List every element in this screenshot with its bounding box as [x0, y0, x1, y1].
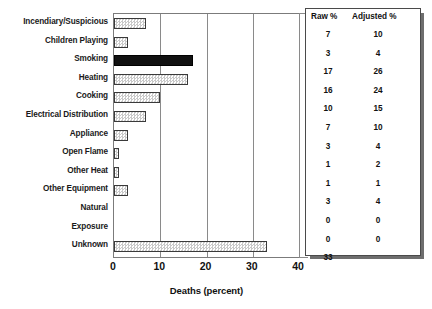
category-label: Electrical Distribution — [0, 110, 108, 120]
connector-vertical-line — [299, 13, 300, 258]
column-header-raw-percent: Raw % — [311, 12, 337, 21]
table-row: 34 — [306, 142, 420, 153]
cell-adjusted-percent: 10 — [350, 30, 406, 39]
cell-raw-percent: 0 — [306, 216, 350, 225]
category-label: Appliance — [0, 129, 108, 139]
cell-raw-percent: 1 — [306, 160, 350, 169]
bar-incendiary-suspicious — [114, 18, 146, 29]
category-label: Smoking — [0, 54, 108, 64]
table-row: 33 — [306, 253, 420, 264]
category-label: Other Equipment — [0, 184, 108, 194]
table-row: 00 — [306, 216, 420, 227]
table-row: 710 — [306, 123, 420, 134]
table-row: 12 — [306, 160, 420, 171]
data-table-header-row: Raw % Adjusted % — [306, 12, 420, 24]
category-label: Exposure — [0, 222, 108, 232]
cell-adjusted-percent: 1 — [350, 179, 406, 188]
table-row: 11 — [306, 179, 420, 190]
x-tick-label: 0 — [98, 260, 128, 272]
category-label: Heating — [0, 73, 108, 83]
cell-adjusted-percent: 2 — [350, 160, 406, 169]
bar-appliance — [114, 130, 128, 141]
category-axis-labels: Incendiary/SuspiciousChildren PlayingSmo… — [0, 14, 108, 258]
data-table-panel: Raw % Adjusted % 71034172616241015710341… — [305, 8, 421, 256]
cell-raw-percent: 3 — [306, 49, 350, 58]
cell-adjusted-percent: 4 — [350, 49, 406, 58]
cell-raw-percent: 17 — [306, 67, 350, 76]
bar-smoking — [114, 55, 193, 66]
cell-adjusted-percent: 10 — [350, 123, 406, 132]
bar-electrical-distribution — [114, 111, 146, 122]
table-row: 00 — [306, 235, 420, 246]
plot-area — [113, 13, 300, 258]
cell-raw-percent: 0 — [306, 235, 350, 244]
category-label: Children Playing — [0, 36, 108, 46]
gridline — [253, 14, 254, 257]
cell-raw-percent: 3 — [306, 142, 350, 151]
category-label: Incendiary/Suspicious — [0, 17, 108, 27]
table-row: 710 — [306, 30, 420, 41]
cell-adjusted-percent: 26 — [350, 67, 406, 76]
cell-raw-percent: 3 — [306, 197, 350, 206]
bar-cooking — [114, 92, 160, 103]
table-row: 1726 — [306, 67, 420, 78]
cell-raw-percent: 1 — [306, 179, 350, 188]
cell-raw-percent: 16 — [306, 86, 350, 95]
cell-raw-percent: 33 — [306, 253, 350, 262]
x-axis-tick-labels: 010203040 — [113, 260, 303, 274]
bar-other-equipment — [114, 185, 128, 196]
cell-adjusted-percent: 4 — [350, 197, 406, 206]
gridline — [160, 14, 161, 257]
table-row: 34 — [306, 49, 420, 60]
x-tick-label: 20 — [191, 260, 221, 272]
table-row: 1015 — [306, 104, 420, 115]
category-label: Other Heat — [0, 166, 108, 176]
category-label: Natural — [0, 203, 108, 213]
bar-children-playing — [114, 37, 128, 48]
x-tick-label: 10 — [144, 260, 174, 272]
cell-raw-percent: 10 — [306, 104, 350, 113]
cell-adjusted-percent: 4 — [350, 142, 406, 151]
category-label: Unknown — [0, 240, 108, 250]
table-row: 34 — [306, 197, 420, 208]
cell-raw-percent: 7 — [306, 123, 350, 132]
cell-raw-percent: 7 — [306, 30, 350, 39]
cell-adjusted-percent: 15 — [350, 104, 406, 113]
bar-unknown — [114, 241, 267, 252]
x-axis-title: Deaths (percent) — [113, 285, 300, 296]
cell-adjusted-percent: 24 — [350, 86, 406, 95]
table-row: 1624 — [306, 86, 420, 97]
gridline — [207, 14, 208, 257]
cell-adjusted-percent: 0 — [350, 235, 406, 244]
x-tick-label: 30 — [237, 260, 267, 272]
cell-adjusted-percent: 0 — [350, 216, 406, 225]
category-label: Open Flame — [0, 147, 108, 157]
bar-other-heat — [114, 167, 119, 178]
bar-heating — [114, 74, 188, 85]
bar-chart-figure: Incendiary/SuspiciousChildren PlayingSmo… — [0, 0, 432, 309]
bar-open-flame — [114, 148, 119, 159]
category-label: Cooking — [0, 91, 108, 101]
column-header-adjusted-percent: Adjusted % — [352, 12, 397, 21]
